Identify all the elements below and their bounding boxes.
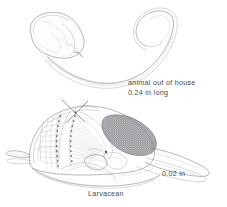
animal-caption-line-2: 0.24 in long [128,88,195,98]
trunk-outline [30,12,84,58]
figure-artwork [0,0,227,207]
figure-title: Larvacean [88,189,124,199]
tail-hook-inner [149,16,170,42]
trunk-group [30,12,84,58]
tail-tip [146,42,162,47]
house-base-inner-line [44,176,98,186]
scale-label: 0.02 in [162,169,185,179]
animal-caption-line-1: animal out of house [128,78,195,88]
animal-out-of-house-drawing [30,8,177,88]
intake-funnel-upper [6,151,31,158]
feeding-filter-node [105,151,107,153]
larvacean-figure: animal out of house 0.24 in long 0.02 in… [0,0,227,207]
intake-funnel-lower [7,159,32,164]
animal-caption: animal out of house 0.24 in long [128,78,195,97]
